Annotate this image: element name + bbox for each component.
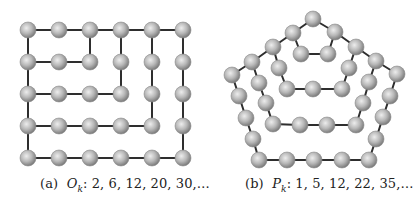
node-sphere: [251, 152, 267, 168]
diagram-svg: [0, 0, 420, 200]
node-sphere: [144, 22, 160, 38]
node-sphere: [144, 86, 160, 102]
node-sphere: [113, 86, 129, 102]
pentagon-nodes: [224, 11, 405, 168]
node-sphere: [306, 152, 322, 168]
node-sphere: [389, 66, 405, 82]
node-sphere: [361, 152, 377, 168]
node-sphere: [144, 118, 160, 134]
node-sphere: [327, 24, 343, 40]
node-sphere: [348, 117, 364, 133]
node-sphere: [82, 86, 98, 102]
caption-b-sequence: : 1, 5, 12, 22, 35,…: [287, 176, 414, 191]
node-sphere: [238, 110, 254, 126]
node-sphere: [20, 22, 36, 38]
node-sphere: [113, 150, 129, 166]
node-sphere: [305, 81, 321, 97]
node-sphere: [375, 109, 391, 125]
node-sphere: [285, 25, 301, 41]
node-sphere: [113, 118, 129, 134]
node-sphere: [224, 67, 240, 83]
node-sphere: [382, 88, 398, 104]
node-sphere: [271, 60, 287, 76]
node-sphere: [144, 150, 160, 166]
node-sphere: [244, 54, 260, 70]
node-sphere: [113, 22, 129, 38]
node-sphere: [20, 86, 36, 102]
node-sphere: [319, 117, 335, 133]
node-sphere: [265, 116, 281, 132]
caption-a-symbol: O: [67, 176, 78, 191]
node-sphere: [334, 152, 350, 168]
caption-a: (a) Ok: 2, 6, 12, 20, 30,…: [40, 176, 210, 194]
figure-canvas: (a) Ok: 2, 6, 12, 20, 30,… (b) Pk: 1, 5,…: [0, 0, 420, 200]
square-grid-figure: [20, 22, 191, 166]
node-sphere: [175, 22, 191, 38]
node-sphere: [279, 81, 295, 97]
node-sphere: [51, 54, 67, 70]
node-sphere: [265, 39, 281, 55]
node-sphere: [368, 53, 384, 69]
pentagon-figure: [224, 11, 405, 168]
node-sphere: [20, 118, 36, 134]
node-sphere: [355, 95, 371, 111]
node-sphere: [279, 152, 295, 168]
node-sphere: [175, 54, 191, 70]
node-sphere: [251, 75, 267, 91]
node-sphere: [82, 22, 98, 38]
node-sphere: [341, 60, 357, 76]
node-sphere: [368, 131, 384, 147]
node-sphere: [20, 150, 36, 166]
caption-b: (b) Pk: 1, 5, 12, 22, 35,…: [245, 176, 414, 194]
node-sphere: [82, 54, 98, 70]
node-sphere: [82, 150, 98, 166]
node-sphere: [334, 81, 350, 97]
node-sphere: [258, 95, 274, 111]
caption-a-label: (a): [40, 176, 58, 191]
caption-b-label: (b): [245, 176, 264, 191]
node-sphere: [144, 54, 160, 70]
node-sphere: [292, 117, 308, 133]
node-sphere: [51, 22, 67, 38]
node-sphere: [293, 46, 309, 62]
node-sphere: [51, 118, 67, 134]
node-sphere: [348, 39, 364, 55]
node-sphere: [51, 86, 67, 102]
node-sphere: [175, 118, 191, 134]
node-sphere: [20, 54, 36, 70]
node-sphere: [361, 74, 377, 90]
node-sphere: [320, 46, 336, 62]
node-sphere: [231, 88, 247, 104]
node-sphere: [51, 150, 67, 166]
caption-b-symbol: P: [272, 176, 281, 191]
node-sphere: [175, 150, 191, 166]
caption-a-sequence: : 2, 6, 12, 20, 30,…: [83, 176, 210, 191]
node-sphere: [305, 11, 321, 27]
node-sphere: [113, 54, 129, 70]
node-sphere: [175, 86, 191, 102]
node-sphere: [82, 118, 98, 134]
node-sphere: [245, 131, 261, 147]
